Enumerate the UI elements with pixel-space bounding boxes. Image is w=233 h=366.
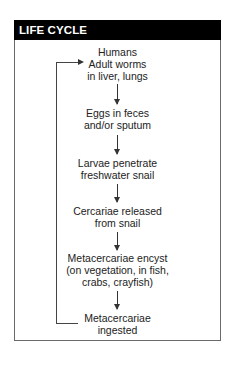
step-line: (on vegetation, in fish, [40, 264, 195, 276]
arrow-down-icon [117, 232, 118, 250]
step-eggs: Eggs in feces and/or sputum [40, 107, 195, 131]
step-line: and/or sputum [40, 119, 195, 131]
step-larvae: Larvae penetrate freshwater snail [40, 157, 195, 181]
step-humans: Humans Adult worms in liver, lungs [40, 46, 195, 82]
step-line: from snail [40, 217, 195, 229]
loop-line-bottom [56, 323, 78, 324]
step-metacercariae-ingested: Metacercariae ingested [40, 312, 195, 336]
step-line: Cercariae released [40, 205, 195, 217]
arrow-down-icon [117, 135, 118, 154]
panel-header: LIFE CYCLE [14, 20, 221, 40]
step-line: crabs, crayfish) [40, 276, 195, 288]
step-line: Larvae penetrate [40, 157, 195, 169]
step-line: Adult worms [40, 58, 195, 70]
step-metacercariae-encyst: Metacercariae encyst (on vegetation, in … [40, 252, 195, 288]
arrow-down-icon [117, 184, 118, 202]
step-cercariae: Cercariae released from snail [40, 205, 195, 229]
step-line: Metacercariae encyst [40, 252, 195, 264]
loop-line-vertical [56, 62, 57, 324]
step-line: ingested [40, 324, 195, 336]
step-line: in liver, lungs [40, 70, 195, 82]
arrow-down-icon [117, 84, 118, 104]
step-line: Eggs in feces [40, 107, 195, 119]
step-line: freshwater snail [40, 169, 195, 181]
arrow-down-icon [117, 291, 118, 309]
step-line: Humans [40, 46, 195, 58]
loop-arrow-right-icon [56, 62, 78, 63]
